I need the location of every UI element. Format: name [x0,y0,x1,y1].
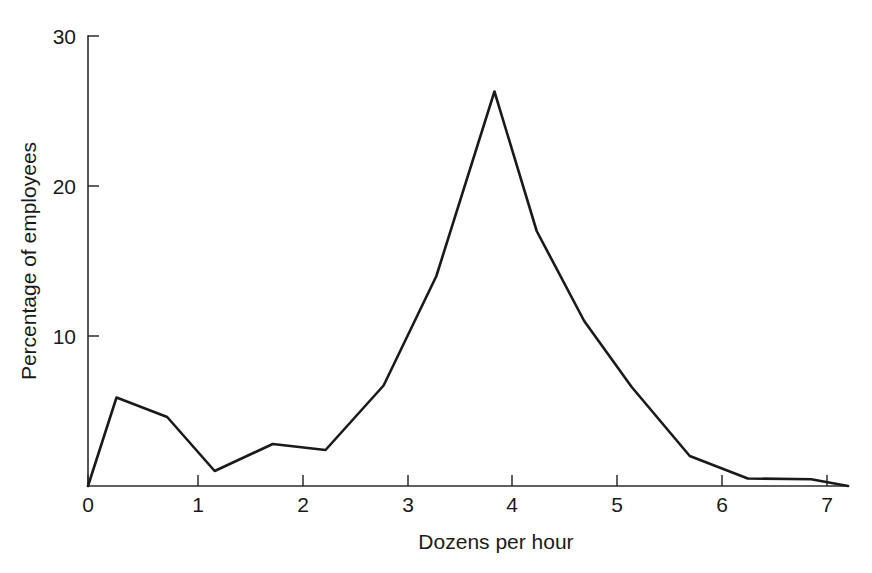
x-tick-marks [88,475,827,486]
y-axis-title: Percentage of employees [17,142,40,380]
y-tick-marks [88,36,99,336]
x-tick-label-5: 5 [611,493,623,516]
x-tick-label-3: 3 [402,493,414,516]
x-tick-label-2: 2 [297,493,309,516]
data-series-line [88,92,848,487]
x-tick-label-4: 4 [506,493,518,516]
line-chart-figure: 30 20 10 0 1 2 3 4 5 6 7 Dozens per hour… [0,0,872,573]
y-tick-label-10: 10 [53,325,76,348]
x-tick-label-1: 1 [192,493,204,516]
x-tick-label-0: 0 [82,493,94,516]
y-tick-label-20: 20 [53,175,76,198]
chart-page: 30 20 10 0 1 2 3 4 5 6 7 Dozens per hour… [0,0,872,573]
x-tick-label-6: 6 [716,493,728,516]
x-tick-label-7: 7 [821,493,833,516]
y-tick-label-30: 30 [53,25,76,48]
chart-svg: 30 20 10 0 1 2 3 4 5 6 7 Dozens per hour… [0,0,872,573]
x-axis-title: Dozens per hour [418,530,573,553]
